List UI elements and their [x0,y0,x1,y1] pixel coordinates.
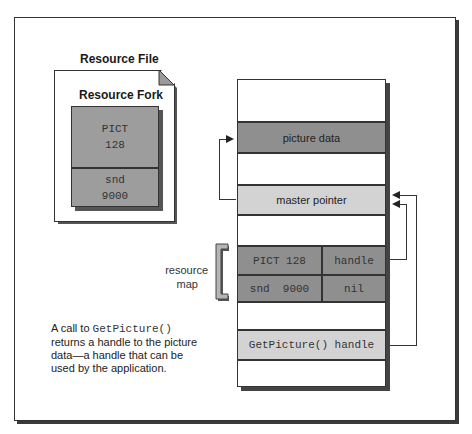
fork-entry-id: 128 [105,137,125,153]
fork-entry-id: 9000 [102,188,128,204]
master-pointer-row: master pointer [238,184,385,216]
picture-data-label: picture data [283,132,340,144]
note-prefix: A call to [51,322,93,334]
connector-line [399,204,406,205]
fork-entry-snd: snd 9000 [72,169,158,206]
map-cell-name: PICT 128 [238,247,323,274]
resource-map-label-line1: resource [150,263,208,277]
resource-fork-box: PICT 128 snd 9000 [71,106,159,207]
connector-line [406,204,407,260]
map-row-pict: PICT 128 handle [238,247,385,276]
note-suffix: returns a handle to the picture data—a h… [51,336,197,374]
connector-line [399,195,416,196]
arrow-left-icon [392,191,400,199]
connector-line [219,139,220,200]
explanatory-note: A call to GetPicture() returns a handle … [51,322,201,375]
connector-line [416,195,417,346]
arrow-left-icon [392,200,400,208]
get-picture-handle-row: GetPicture() handle [238,329,385,361]
resource-map-rows: PICT 128 handle snd 9000 nil [238,245,385,303]
resource-map-label: resource map [150,263,208,291]
map-cell-name: snd 9000 [238,276,323,301]
master-pointer-label: master pointer [276,194,346,206]
connector-line [390,259,407,260]
map-row-snd: snd 9000 nil [238,276,385,301]
memory-heap-block: picture data master pointer PICT 128 han… [237,79,386,387]
fork-entry-pict: PICT 128 [72,107,158,169]
note-code: GetPicture() [93,323,172,335]
resource-map-label-line2: map [150,277,208,291]
fork-entry-type: snd [105,172,125,188]
get-picture-handle-label: GetPicture() handle [249,339,374,351]
picture-data-row: picture data [238,121,385,154]
connector-line [219,199,236,200]
map-cell-value: handle [323,247,385,274]
arrow-right-icon [226,135,234,143]
map-cell-value: nil [323,276,385,301]
bracket-icon [214,243,230,302]
folded-corner-icon [158,69,175,86]
fork-entry-type: PICT [102,121,128,137]
connector-line [390,345,417,346]
resource-fork-title: Resource Fork [79,88,163,102]
resource-file-title: Resource File [80,52,159,66]
